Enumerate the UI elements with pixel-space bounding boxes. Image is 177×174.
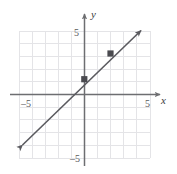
- x-axis-label: x: [160, 94, 166, 106]
- coordinate-plane: –5 5 5 –5 x y: [0, 0, 177, 174]
- y-tick-label-negative-5: –5: [69, 153, 80, 164]
- data-point-second: [107, 50, 113, 56]
- x-tick-label-negative-5: –5: [20, 98, 31, 109]
- plotted-line: [23, 31, 142, 146]
- graph-figure: –5 5 5 –5 x y: [0, 0, 177, 174]
- y-tick-label-5: 5: [74, 27, 79, 38]
- data-point-y-intercept: [81, 76, 87, 82]
- y-axis-label: y: [90, 8, 96, 20]
- x-tick-label-5: 5: [145, 98, 150, 109]
